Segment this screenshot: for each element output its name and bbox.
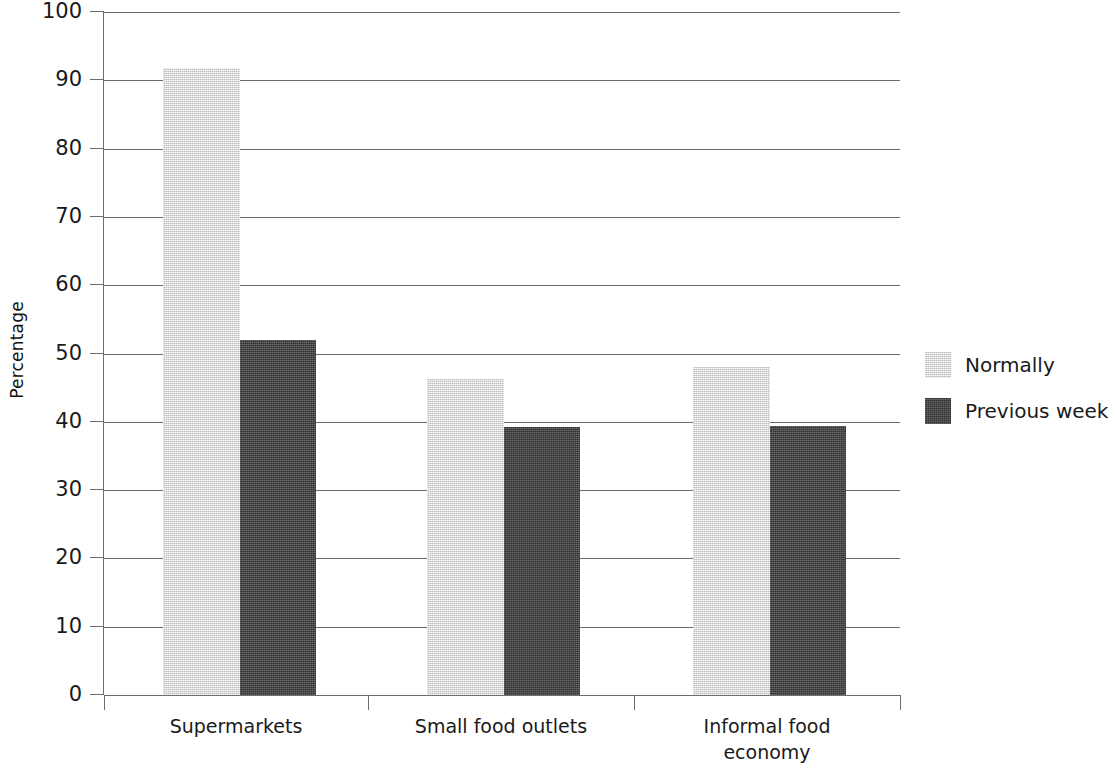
bar-chart-figure: Percentage 0102030405060708090100 Superm… xyxy=(0,0,1115,771)
bar xyxy=(163,68,240,695)
y-axis-tick-mark xyxy=(90,694,104,695)
y-axis-tick-label: 40 xyxy=(55,409,82,433)
bar xyxy=(240,340,316,695)
x-axis-category-line: Informal food xyxy=(657,713,877,739)
legend-swatch xyxy=(925,398,951,424)
y-axis-tick-label: 90 xyxy=(55,67,82,91)
y-axis-tick-label: 100 xyxy=(42,0,82,23)
legend-label: Previous week xyxy=(965,399,1108,423)
y-axis-tick-mark xyxy=(90,79,104,80)
x-axis-category-label: Informal foodeconomy xyxy=(657,713,877,765)
x-axis-ticks: SupermarketsSmall food outletsInformal f… xyxy=(104,695,900,771)
x-axis-category-label: Small food outlets xyxy=(391,713,611,739)
x-axis-tick-mark xyxy=(368,695,369,710)
bar xyxy=(693,367,770,695)
y-axis-tick-label: 10 xyxy=(55,614,82,638)
bar xyxy=(504,427,580,695)
bar xyxy=(770,426,846,695)
x-axis-tick-mark xyxy=(104,695,105,710)
y-axis-ticks: 0102030405060708090100 xyxy=(0,12,104,695)
y-axis-tick-mark xyxy=(90,353,104,354)
x-axis-category-line: economy xyxy=(657,739,877,765)
y-axis-tick-label: 60 xyxy=(55,272,82,296)
x-axis-category-label: Supermarkets xyxy=(126,713,346,739)
legend-item[interactable]: Normally xyxy=(925,348,1110,382)
y-axis-tick-label: 80 xyxy=(55,136,82,160)
gridline xyxy=(104,12,900,13)
y-axis-tick-label: 70 xyxy=(55,204,82,228)
y-axis-tick-label: 50 xyxy=(55,341,82,365)
y-axis-tick-mark xyxy=(90,148,104,149)
y-axis-tick-mark xyxy=(90,216,104,217)
y-axis-tick-label: 20 xyxy=(55,545,82,569)
x-axis-category-line: Supermarkets xyxy=(126,713,346,739)
plot-area xyxy=(104,12,900,695)
legend-swatch xyxy=(925,352,951,378)
x-axis-tick-mark xyxy=(900,695,901,710)
legend-label: Normally xyxy=(965,353,1055,377)
x-axis-tick-mark xyxy=(634,695,635,710)
y-axis-tick-mark xyxy=(90,626,104,627)
y-axis-tick-mark xyxy=(90,489,104,490)
legend: NormallyPrevious week xyxy=(925,348,1110,440)
x-axis-category-line: Small food outlets xyxy=(391,713,611,739)
y-axis-tick-mark xyxy=(90,284,104,285)
y-axis-tick-mark xyxy=(90,11,104,12)
y-axis-tick-mark xyxy=(90,421,104,422)
y-axis-tick-mark xyxy=(90,557,104,558)
y-axis-tick-label: 30 xyxy=(55,477,82,501)
bar xyxy=(427,379,504,695)
y-axis-tick-label: 0 xyxy=(69,682,82,706)
legend-item[interactable]: Previous week xyxy=(925,394,1110,428)
